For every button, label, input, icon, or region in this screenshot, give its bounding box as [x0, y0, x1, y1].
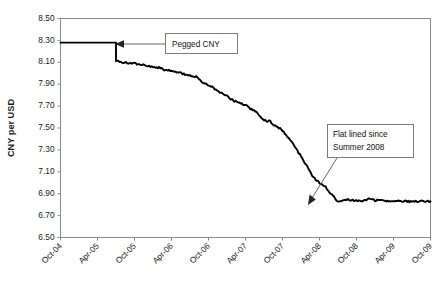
data-series-group [61, 43, 431, 203]
x-axis-tick-label: Apr-05 [76, 241, 101, 266]
x-axis-tick-label: Oct-04 [39, 241, 64, 266]
x-axis-tick-label: Apr-08 [298, 241, 323, 266]
y-axis-tick-label: 8.50 [38, 13, 55, 23]
y-axis-tick-label: 7.30 [38, 144, 55, 154]
x-axis-tick-label: Oct-06 [187, 241, 212, 266]
y-axis-tick-label: 6.70 [38, 210, 55, 220]
x-axis-tick-label: Apr-06 [150, 241, 175, 266]
y-axis-tick-label: 8.10 [38, 56, 55, 66]
flat-lined-label-line2: Summer 2008 [333, 143, 385, 152]
flat-lined-leader [312, 158, 337, 198]
x-axis-tick-label: Oct-07 [261, 241, 286, 266]
x-axis-tick-label: Oct-08 [335, 241, 360, 266]
y-axis-tick-label: 7.10 [38, 166, 55, 176]
x-axis-tick-label: Apr-09 [372, 241, 397, 266]
y-axis-tick-label: 7.50 [38, 122, 55, 132]
x-axis-tick-label: Oct-05 [113, 241, 138, 266]
x-axis-tick-label: Apr-07 [224, 241, 249, 266]
annotation-flat-lined: Flat lined since Summer 2008 [308, 125, 414, 206]
y-axis: 8.508.308.107.907.707.507.307.106.906.70… [38, 13, 60, 242]
flat-lined-arrowhead [308, 195, 316, 205]
y-axis-tick-label: 6.90 [38, 188, 55, 198]
y-axis-tick-label: 7.90 [38, 78, 55, 88]
x-axis: Oct-04Apr-05Oct-05Apr-06Oct-06Apr-07Oct-… [39, 238, 434, 266]
cny-per-usd-line-chart: 8.508.308.107.907.707.507.307.106.906.70… [0, 0, 447, 290]
y-axis-tick-label: 6.50 [38, 232, 55, 242]
y-axis-title: CNY per USD [6, 99, 16, 157]
annotation-pegged-cny: Pegged CNY [115, 34, 238, 54]
x-axis-tick-label: Oct-09 [409, 241, 434, 266]
y-axis-tick-label: 7.70 [38, 100, 55, 110]
chart-container: 8.508.308.107.907.707.507.307.106.906.70… [0, 0, 447, 290]
flat-lined-label-line1: Flat lined since [333, 130, 388, 139]
pegged-cny-label: Pegged CNY [172, 40, 220, 49]
y-axis-tick-label: 8.30 [38, 35, 55, 45]
series-line-cny-per-usd [61, 43, 431, 203]
